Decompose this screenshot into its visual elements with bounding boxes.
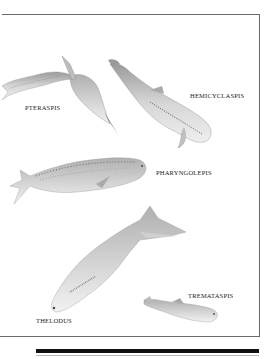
- illustrations-layer: [0, 0, 274, 359]
- label-pharyngolepis: PHARYNGOLEPIS: [156, 169, 212, 176]
- fish-thelodus-illustration: [52, 206, 187, 312]
- footer-rule-black: [36, 349, 259, 353]
- label-trematapsis: TREMATASPIS: [188, 292, 233, 299]
- fish-pteraspis-illustration: [2, 56, 118, 134]
- label-thelodus: THELODUS: [36, 317, 72, 324]
- fish-trematapsis-illustration: [144, 296, 217, 322]
- fish-pharyngolepis-illustration: [10, 158, 146, 204]
- label-pteraspis: PTERASPIS: [25, 104, 60, 111]
- fish-hemicyclaspis-illustration: [108, 59, 211, 148]
- footer-rule-gray: [36, 355, 259, 356]
- label-hemicyclaspis: HEMICYCLASPIS: [190, 92, 244, 99]
